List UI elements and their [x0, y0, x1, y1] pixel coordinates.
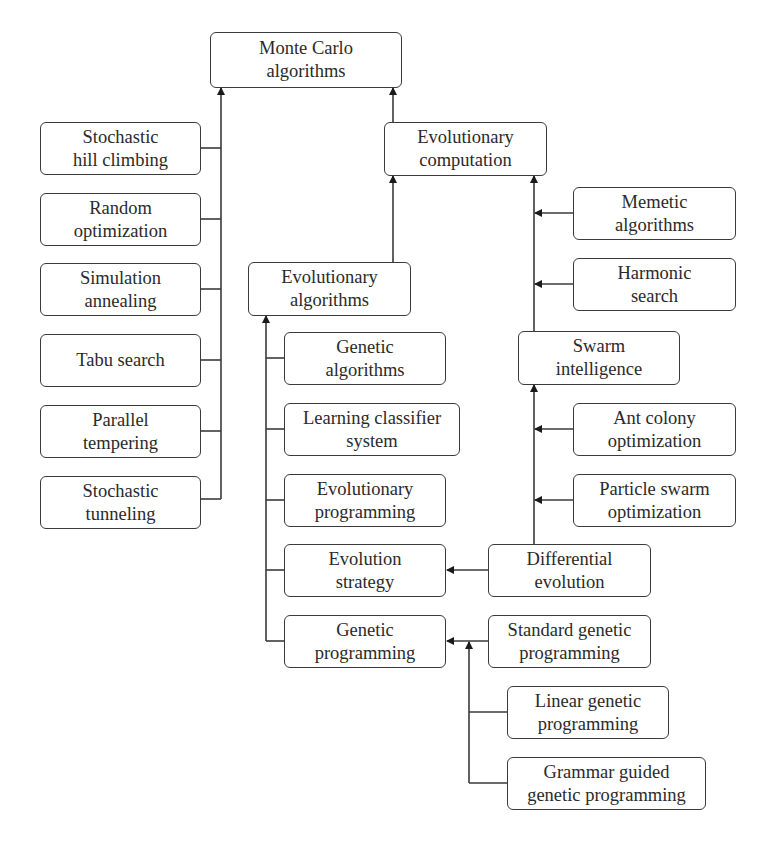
- node-label-line1: Evolutionary: [317, 478, 414, 501]
- node-label-line2: genetic programming: [527, 784, 686, 807]
- node-label-line2: programming: [519, 642, 620, 665]
- node-label-line2: algorithms: [615, 214, 694, 237]
- node-label-line1: Monte Carlo: [259, 37, 353, 60]
- node-label-line2: system: [346, 430, 397, 453]
- node-simulation-annealing: Simulation annealing: [40, 263, 201, 316]
- node-label-line2: algorithms: [325, 359, 404, 382]
- node-monte-carlo-algorithms: Monte Carlo algorithms: [210, 32, 402, 88]
- node-label-line1: Simulation: [80, 267, 161, 290]
- node-label-line1: Stochastic: [82, 126, 158, 149]
- node-label-line1: Differential: [527, 548, 613, 571]
- node-evolutionary-computation: Evolutionary computation: [384, 122, 547, 176]
- node-label-line2: evolution: [535, 571, 605, 594]
- node-label-line1: Evolutionary: [417, 126, 514, 149]
- node-stochastic-hill-climbing: Stochastic hill climbing: [40, 122, 201, 175]
- node-label-line1: Particle swarm: [599, 478, 709, 501]
- node-memetic-algorithms: Memetic algorithms: [573, 187, 736, 240]
- node-label-line1: Standard genetic: [508, 619, 632, 642]
- node-evolutionary-algorithms: Evolutionary algorithms: [248, 262, 411, 316]
- node-differential-evolution: Differential evolution: [488, 544, 651, 597]
- node-harmonic-search: Harmonic search: [573, 258, 736, 311]
- node-label-line2: programming: [315, 501, 416, 524]
- node-label-line1: Random: [89, 197, 152, 220]
- node-label-line2: optimization: [608, 430, 702, 453]
- node-label-line1: Evolution: [329, 548, 402, 571]
- node-label-line2: computation: [419, 149, 511, 172]
- node-label-line2: algorithms: [266, 60, 345, 83]
- node-evolution-strategy: Evolution strategy: [284, 544, 446, 597]
- node-parallel-tempering: Parallel tempering: [40, 405, 201, 458]
- node-evolutionary-programming: Evolutionary programming: [284, 474, 446, 527]
- node-tabu-search: Tabu search: [40, 334, 201, 387]
- node-label-line2: annealing: [85, 290, 157, 313]
- node-label-line2: algorithms: [290, 289, 369, 312]
- node-label-line1: Evolutionary: [281, 266, 378, 289]
- node-label-line1: Genetic: [336, 336, 394, 359]
- node-label-line1: Linear genetic: [535, 690, 641, 713]
- node-genetic-algorithms: Genetic algorithms: [284, 332, 446, 385]
- node-label-line2: tempering: [83, 432, 158, 455]
- node-label-line1: Swarm: [573, 335, 625, 358]
- node-stochastic-tunneling: Stochastic tunneling: [40, 476, 201, 529]
- node-grammar-guided-genetic-programming: Grammar guided genetic programming: [507, 757, 706, 810]
- node-label-line2: optimization: [74, 220, 168, 243]
- node-label-line1: Learning classifier: [303, 407, 441, 430]
- node-label-line2: programming: [538, 713, 639, 736]
- node-label-line2: optimization: [608, 501, 702, 524]
- node-label-line1: Ant colony: [613, 407, 696, 430]
- node-standard-genetic-programming: Standard genetic programming: [488, 615, 651, 668]
- node-label-line2: tunneling: [86, 503, 156, 526]
- node-label-line2: strategy: [336, 571, 395, 594]
- node-label-line1: Grammar guided: [544, 761, 670, 784]
- node-random-optimization: Random optimization: [40, 193, 201, 246]
- node-label-line1: Tabu search: [76, 349, 165, 372]
- node-learning-classifier-system: Learning classifier system: [284, 403, 460, 456]
- node-swarm-intelligence: Swarm intelligence: [518, 331, 680, 385]
- node-linear-genetic-programming: Linear genetic programming: [507, 686, 669, 739]
- node-label-line2: hill climbing: [73, 149, 168, 172]
- node-label-line1: Memetic: [622, 191, 688, 214]
- node-label-line1: Harmonic: [618, 262, 692, 285]
- node-label-line1: Genetic: [336, 619, 394, 642]
- node-particle-swarm-optimization: Particle swarm optimization: [573, 474, 736, 527]
- node-label-line2: search: [631, 285, 678, 308]
- node-label-line1: Parallel: [92, 409, 149, 432]
- node-label-line2: intelligence: [556, 358, 642, 381]
- node-label-line1: Stochastic: [82, 480, 158, 503]
- node-genetic-programming: Genetic programming: [284, 615, 446, 668]
- node-label-line2: programming: [315, 642, 416, 665]
- node-ant-colony-optimization: Ant colony optimization: [573, 403, 736, 456]
